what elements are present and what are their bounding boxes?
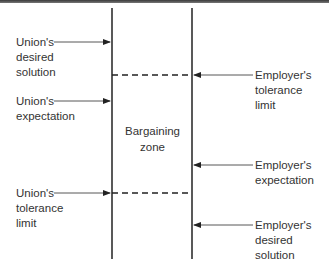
employer-desired-solution-label: Employer's desired solution <box>255 218 312 263</box>
union-tolerance-limit-label: Union's tolerance limit <box>16 186 63 231</box>
employer-tolerance-limit-label: Employer's tolerance limit <box>255 68 312 113</box>
union-desired-solution-label: Union's desired solution <box>16 35 56 80</box>
union-expectation-label: Union's expectation <box>16 94 75 124</box>
employer-expectation-label: Employer's expectation <box>255 158 314 188</box>
bargaining-zone-label: Bargaining zone <box>113 123 192 155</box>
